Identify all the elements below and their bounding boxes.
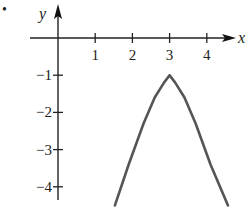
x-tick-label: 4	[203, 47, 211, 63]
x-axis-label: x	[237, 29, 245, 46]
y-tick-label: −4	[36, 179, 52, 195]
y-tick-label: −3	[36, 142, 52, 158]
x-tick-label: 3	[166, 47, 174, 63]
graph-figure: • xy1234−1−2−3−4	[0, 0, 252, 214]
curve-series	[115, 75, 228, 205]
y-axis-label: y	[37, 5, 47, 23]
list-bullet: •	[2, 2, 7, 18]
plot-area: xy1234−1−2−3−4	[0, 0, 252, 214]
y-tick-label: −2	[36, 104, 52, 120]
y-tick-label: −1	[36, 67, 52, 83]
x-tick-label: 1	[91, 47, 99, 63]
x-tick-label: 2	[129, 47, 137, 63]
